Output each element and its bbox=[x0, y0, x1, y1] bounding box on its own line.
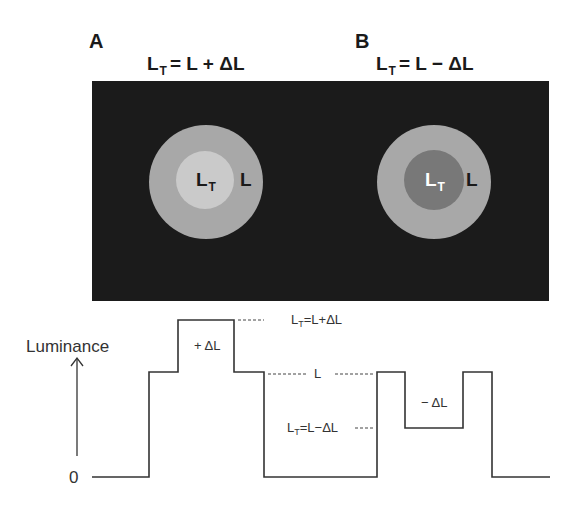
upper-level-label: LT=L+ΔL bbox=[291, 313, 342, 331]
lower-level-label: LT=L−ΔL bbox=[287, 421, 338, 439]
y-axis-arrow-icon bbox=[71, 358, 83, 456]
increment-label: + ΔL bbox=[194, 339, 220, 353]
lower-level-label-rest: =L−ΔL bbox=[300, 420, 338, 435]
upper-level-label-rest: =L+ΔL bbox=[304, 312, 342, 327]
decrement-label: − ΔL bbox=[421, 396, 447, 410]
reference-level-label: L bbox=[314, 367, 321, 381]
y-axis-label: Luminance bbox=[26, 338, 109, 356]
zero-label: 0 bbox=[69, 469, 78, 487]
luminance-waveform bbox=[92, 320, 550, 477]
